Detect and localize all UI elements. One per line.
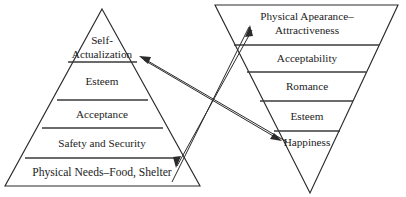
- maslow-level-safety-and-security: Safety and Security: [58, 137, 146, 149]
- inverted-level-esteem: Esteem: [291, 110, 324, 122]
- hierarchy-diagram: Self- Actualization Esteem Acceptance Sa…: [0, 0, 406, 197]
- arrow-to-physical-needs-shaft: [177, 30, 252, 166]
- maslow-level-self-actualization-line2: Actualization: [72, 48, 133, 60]
- inverted-level-romance: Romance: [286, 80, 328, 92]
- maslow-pyramid: Self- Actualization Esteem Acceptance Sa…: [5, 9, 200, 186]
- maslow-level-physical-needs: Physical Needs–Food, Shelter: [32, 166, 172, 179]
- diagram-container: Self- Actualization Esteem Acceptance Sa…: [0, 0, 406, 197]
- maslow-level-esteem: Esteem: [86, 75, 119, 87]
- maslow-level-self-actualization-line1: Self-: [91, 34, 113, 46]
- inverted-pyramid: Physical Apearance– Attractiveness Accep…: [215, 5, 398, 193]
- inverted-level-physical-appearance-line2: Attractiveness: [275, 24, 339, 36]
- inverted-level-physical-appearance-line1: Physical Apearance–: [260, 10, 354, 22]
- maslow-level-acceptance: Acceptance: [76, 108, 128, 120]
- inverted-level-happiness: Happiness: [284, 136, 331, 148]
- inverted-level-acceptability: Acceptability: [277, 52, 338, 64]
